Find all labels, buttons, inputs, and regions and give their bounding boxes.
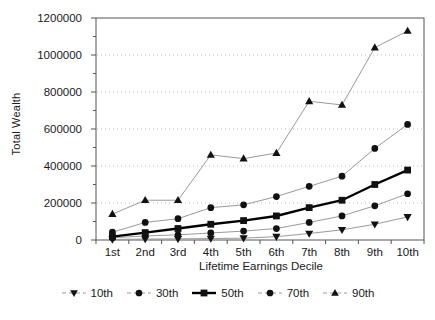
x-tick-label: 2nd [136, 246, 155, 258]
legend-item-70th[interactable]: 70th [257, 286, 309, 300]
legend-swatch-circle-icon [257, 286, 283, 300]
legend-label: 90th [352, 287, 374, 299]
x-tick-label: 6th [268, 246, 284, 258]
legend-swatch-square-icon [191, 286, 217, 300]
legend-label: 70th [287, 287, 309, 299]
x-tick-label: 4th [203, 246, 219, 258]
y-tick-label: 600000 [10, 124, 82, 134]
x-tick-label: 9th [367, 246, 383, 258]
x-tick-label: 3rd [170, 246, 187, 258]
x-axis-title: Lifetime Earnings Decile [96, 260, 426, 272]
legend-item-10th[interactable]: 10th [61, 286, 113, 300]
y-tick-label: 800000 [10, 87, 82, 97]
legend-swatch-circle-icon [126, 286, 152, 300]
legend-label: 30th [156, 287, 178, 299]
legend-swatch-triangle-down-icon [61, 286, 87, 300]
x-tick-label: 5th [236, 246, 252, 258]
legend-swatch-triangle-up-icon [322, 286, 348, 300]
y-tick-label: 1200000 [10, 13, 82, 23]
y-tick-label: 200000 [10, 198, 82, 208]
legend-label: 10th [91, 287, 113, 299]
y-tick-label: 1000000 [10, 50, 82, 60]
legend-item-50th[interactable]: 50th [191, 286, 243, 300]
legend-item-30th[interactable]: 30th [126, 286, 178, 300]
x-tick-label: 7th [301, 246, 317, 258]
x-tick-label: 8th [334, 246, 350, 258]
chart-figure: Total Wealth 1200000 1000000 800000 6000… [0, 0, 435, 320]
y-axis-tick-labels: 1200000 1000000 800000 600000 400000 200… [10, 0, 82, 320]
y-tick-label: 0 [10, 235, 82, 245]
x-tick-label: 1st [105, 246, 120, 258]
y-tick-label: 400000 [10, 161, 82, 171]
chart-legend: 10th30th50th70th90th [0, 286, 435, 300]
x-tick-label: 10th [396, 246, 418, 258]
legend-item-90th[interactable]: 90th [322, 286, 374, 300]
legend-label: 50th [221, 287, 243, 299]
